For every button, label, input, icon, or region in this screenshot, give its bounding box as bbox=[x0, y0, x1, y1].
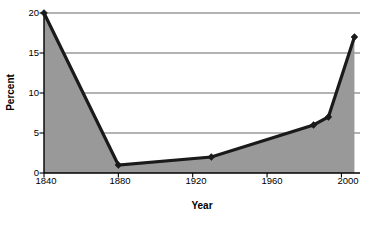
plot-area bbox=[0, 0, 370, 225]
chart-figure: Percent 20 15 10 5 0 1840 1880 1920 1960… bbox=[0, 0, 370, 225]
